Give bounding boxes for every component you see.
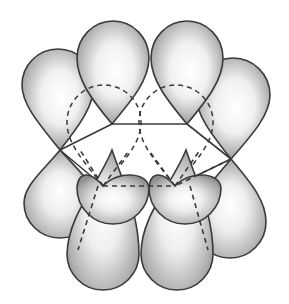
benzene-orbital-diagram <box>0 0 289 304</box>
